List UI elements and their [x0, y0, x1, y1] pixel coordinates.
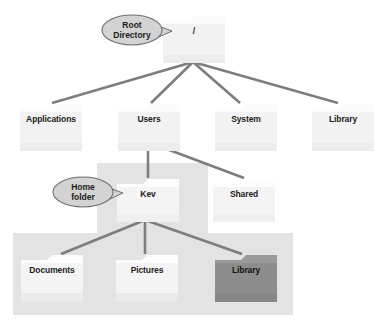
callout-line-1: Home [71, 182, 95, 193]
folder-icon [213, 178, 275, 222]
folder-label: System [215, 114, 277, 124]
folder-node-system[interactable]: System [215, 103, 277, 151]
callout-line-1: Root [122, 20, 141, 31]
folder-label: Pictures [116, 265, 178, 275]
callout-home-folder: Home folder [52, 176, 124, 208]
folder-node-kev[interactable]: Kev [117, 178, 179, 222]
folder-node-pictures[interactable]: Pictures [116, 254, 178, 302]
callout-text: Root Directory [102, 15, 162, 45]
folder-icon [21, 254, 83, 302]
folder-icon [215, 254, 277, 302]
folder-icon [117, 178, 179, 222]
folder-label: Applications [20, 114, 82, 124]
folder-label: Kev [117, 189, 179, 199]
folder-icon [118, 103, 180, 151]
callout-line-2: folder [71, 192, 95, 203]
folder-label: Documents [21, 265, 83, 275]
folder-node-users[interactable]: Users [118, 103, 180, 151]
folder-label: Library [215, 265, 277, 275]
folder-node-applications[interactable]: Applications [20, 103, 82, 151]
callout-text: Home folder [53, 177, 113, 207]
folder-icon [20, 103, 82, 151]
folder-icon [312, 103, 374, 151]
callout-line-2: Directory [113, 30, 150, 41]
folder-node-user-library[interactable]: Library [215, 254, 277, 302]
edge-kev-documents [61, 220, 145, 254]
folder-label: Users [118, 114, 180, 124]
folder-node-documents[interactable]: Documents [21, 254, 83, 302]
folder-node-library[interactable]: Library [312, 103, 374, 151]
folder-icon [116, 254, 178, 302]
edge-kev-userlibrary [145, 220, 242, 254]
folder-label: Library [312, 114, 374, 124]
folder-label: Shared [213, 189, 275, 199]
folder-node-shared[interactable]: Shared [213, 178, 275, 222]
callout-root-directory: Root Directory [101, 14, 173, 46]
file-system-tree-diagram: / Applications Users System [0, 0, 378, 332]
folder-icon [215, 103, 277, 151]
